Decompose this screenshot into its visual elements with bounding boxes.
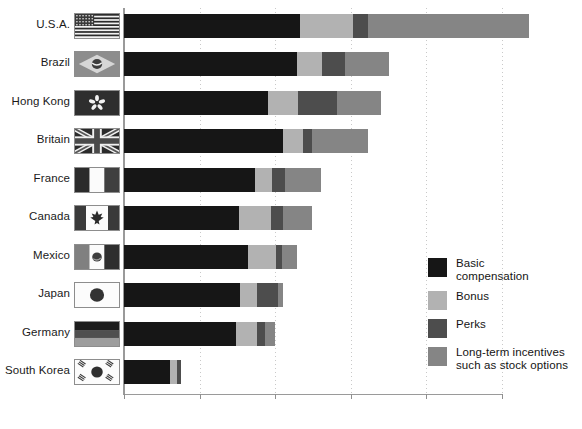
chart-row: Japan xyxy=(0,280,582,310)
legend-label-line2: such as stock options xyxy=(456,359,568,372)
chart-row: U.S.A. xyxy=(0,11,582,41)
bar-segment-perks xyxy=(303,129,312,153)
bar-segment-bonus xyxy=(239,206,271,230)
bar-segment-basic xyxy=(124,206,239,230)
bar-segment-basic xyxy=(124,91,268,115)
legend-label-line2: compensation xyxy=(456,270,529,283)
bar-segment-basic xyxy=(124,322,236,346)
bar-segment-lti xyxy=(278,283,283,307)
bar-segment-basic xyxy=(124,360,170,384)
legend-label-line1: Basic xyxy=(456,257,529,270)
bar-segment-basic xyxy=(124,14,300,38)
country-label: South Korea xyxy=(0,364,70,377)
stacked-bar xyxy=(124,168,321,192)
x-tick xyxy=(275,394,276,399)
country-label: France xyxy=(0,172,70,185)
bar-segment-perks xyxy=(257,322,265,346)
bar-segment-perks xyxy=(353,14,368,38)
bar-segment-perks xyxy=(177,360,181,384)
country-label: Canada xyxy=(0,210,70,223)
x-tick xyxy=(200,394,201,399)
x-axis-line xyxy=(123,394,503,395)
chart-row: Britain xyxy=(0,126,582,156)
legend-label: Perks xyxy=(456,318,486,331)
flag-usa-icon xyxy=(74,13,120,39)
flag-mexico-icon xyxy=(74,244,120,270)
x-tick xyxy=(426,394,427,399)
flag-japan-icon xyxy=(74,282,120,308)
bar-segment-lti xyxy=(345,52,389,76)
bar-segment-perks xyxy=(271,206,283,230)
country-label: Japan xyxy=(0,287,70,300)
bar-segment-lti xyxy=(283,206,312,230)
bar-segment-lti xyxy=(265,322,275,346)
bar-segment-perks xyxy=(298,91,337,115)
legend-swatch-perks xyxy=(428,319,447,338)
chart-row: Brazil xyxy=(0,49,582,79)
bar-segment-basic xyxy=(124,129,283,153)
bar-segment-lti xyxy=(285,168,321,192)
country-label: Britain xyxy=(0,133,70,146)
chart-row: Canada xyxy=(0,203,582,233)
legend-swatch-basic xyxy=(428,258,447,277)
stacked-bar xyxy=(124,91,381,115)
bar-segment-basic xyxy=(124,168,255,192)
flag-germany-icon xyxy=(74,321,120,347)
flag-southkorea-icon xyxy=(74,359,120,385)
stacked-bar-chart: U.S.A.BrazilHong KongBritainFranceCanada… xyxy=(0,0,582,429)
bar-segment-perks xyxy=(322,52,345,76)
flag-brazil-icon xyxy=(74,51,120,77)
legend-label: Long-term incentivessuch as stock option… xyxy=(456,346,568,371)
country-label: Brazil xyxy=(0,56,70,69)
flag-canada-icon xyxy=(74,205,120,231)
x-tick xyxy=(502,394,503,399)
x-tick xyxy=(351,394,352,399)
legend-label-line1: Bonus xyxy=(456,290,489,303)
stacked-bar xyxy=(124,129,368,153)
bar-segment-bonus xyxy=(240,283,257,307)
stacked-bar xyxy=(124,322,275,346)
bar-segment-bonus xyxy=(236,322,257,346)
flag-britain-icon xyxy=(74,128,120,154)
legend-swatch-bonus xyxy=(428,291,447,310)
stacked-bar xyxy=(124,52,389,76)
bar-segment-basic xyxy=(124,245,248,269)
bar-segment-lti xyxy=(368,14,529,38)
bar-segment-basic xyxy=(124,52,297,76)
bar-segment-perks xyxy=(272,168,285,192)
stacked-bar xyxy=(124,360,181,384)
bar-segment-lti xyxy=(282,245,297,269)
legend-label-line1: Perks xyxy=(456,318,486,331)
legend-label: Bonus xyxy=(456,290,489,303)
flag-hongkong-icon xyxy=(74,90,120,116)
stacked-bar xyxy=(124,14,529,38)
bar-segment-lti xyxy=(312,129,368,153)
bar-segment-lti xyxy=(337,91,381,115)
chart-row: Hong Kong xyxy=(0,88,582,118)
bar-segment-bonus xyxy=(170,360,177,384)
stacked-bar xyxy=(124,283,283,307)
bar-segment-bonus xyxy=(300,14,353,38)
legend-label-line1: Long-term incentives xyxy=(456,346,568,359)
x-tick xyxy=(124,394,125,399)
flag-france-icon xyxy=(74,167,120,193)
legend-label: Basiccompensation xyxy=(456,257,529,282)
chart-row: France xyxy=(0,165,582,195)
country-label: U.S.A. xyxy=(0,18,70,31)
bar-segment-perks xyxy=(257,283,278,307)
stacked-bar xyxy=(124,245,297,269)
bar-segment-basic xyxy=(124,283,240,307)
country-label: Mexico xyxy=(0,249,70,262)
stacked-bar xyxy=(124,206,312,230)
bar-segment-bonus xyxy=(283,129,303,153)
legend-swatch-lti xyxy=(428,347,447,366)
bar-segment-bonus xyxy=(297,52,322,76)
country-label: Germany xyxy=(0,326,70,339)
bar-segment-bonus xyxy=(248,245,276,269)
bar-segment-bonus xyxy=(268,91,298,115)
chart-row: Germany xyxy=(0,319,582,349)
bar-segment-bonus xyxy=(255,168,272,192)
country-label: Hong Kong xyxy=(0,95,70,108)
